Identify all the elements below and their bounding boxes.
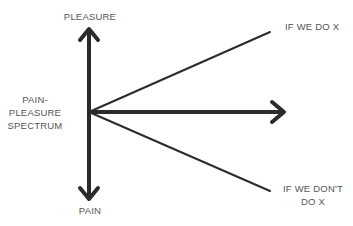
spectrum-label-line-1: PAIN- bbox=[2, 93, 68, 106]
upper-branch-line bbox=[89, 32, 270, 112]
spectrum-label-line-2: PLEASURE bbox=[2, 106, 68, 119]
spectrum-label-line-3: SPECTRUM bbox=[2, 119, 68, 132]
if-we-do-x-label: IF WE DO X bbox=[285, 20, 345, 33]
if-we-dont-do-x-label: IF WE DON'T DO X bbox=[278, 182, 348, 208]
if-we-dont-line-1: IF WE DON'T bbox=[278, 182, 348, 195]
pleasure-label: PLEASURE bbox=[63, 10, 117, 23]
spectrum-label: PAIN- PLEASURE SPECTRUM bbox=[2, 93, 68, 132]
if-we-dont-line-2: DO X bbox=[278, 195, 348, 208]
lower-branch-line bbox=[89, 112, 270, 191]
pain-label: PAIN bbox=[76, 204, 104, 217]
